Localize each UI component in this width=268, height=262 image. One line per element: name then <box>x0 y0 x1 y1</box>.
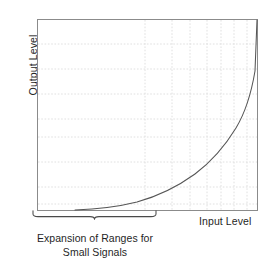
range-brace-icon <box>30 210 160 224</box>
vertical-gridlines <box>145 20 247 210</box>
range-caption: Expansion of Ranges for Small Signals <box>14 232 176 259</box>
x-axis-label: Input Level <box>199 215 251 228</box>
expansion-transfer-curve-figure: Output Level Input Level <box>0 0 268 262</box>
plot-area <box>37 19 258 211</box>
horizontal-gridlines <box>38 44 257 204</box>
transfer-curve <box>75 20 257 210</box>
range-caption-line-2: Small Signals <box>14 246 176 260</box>
range-caption-line-1: Expansion of Ranges for <box>37 232 153 244</box>
